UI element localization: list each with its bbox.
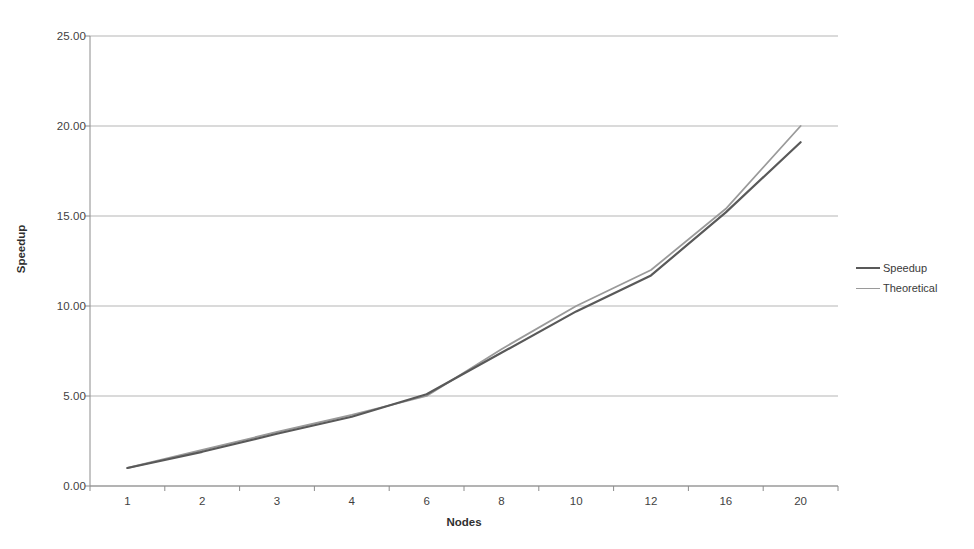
x-tick-label-20: 20 [781, 495, 821, 508]
chart-legend: SpeedupTheoretical [856, 258, 974, 298]
legend-swatch-speedup-icon [856, 267, 880, 269]
legend-item-speedup[interactable]: Speedup [856, 258, 974, 278]
gridline-group [90, 36, 838, 486]
x-tick-label-10: 10 [556, 495, 596, 508]
x-tick-label-12: 12 [631, 495, 671, 508]
legend-label-theoretical: Theoretical [883, 282, 937, 294]
x-axis-title: Nodes [90, 516, 838, 528]
legend-item-theoretical[interactable]: Theoretical [856, 278, 974, 298]
series-line-theoretical [127, 126, 800, 468]
y-axis-title: Speedup [15, 209, 27, 289]
speedup-line-chart: 0.005.0010.0015.0020.0025.00 12346810121… [0, 0, 974, 549]
y-tick-label-10: 10.00 [28, 300, 86, 312]
series-line-speedup [127, 142, 800, 468]
y-tick-label-15: 15.00 [28, 210, 86, 222]
legend-swatch-theoretical-icon [856, 288, 880, 289]
x-tick-label-1: 1 [107, 495, 147, 508]
legend-label-speedup: Speedup [883, 262, 927, 274]
y-axis-tick-labels: 0.005.0010.0015.0020.0025.00 [28, 0, 86, 549]
x-tick-label-2: 2 [182, 495, 222, 508]
y-tick-label-25: 25.00 [28, 30, 86, 42]
x-tick-label-4: 4 [332, 495, 372, 508]
y-tick-label-0: 0.00 [28, 480, 86, 492]
y-tick-label-20: 20.00 [28, 120, 86, 132]
x-tick-mark-group [90, 486, 838, 491]
x-tick-label-6: 6 [407, 495, 447, 508]
x-tick-label-8: 8 [481, 495, 521, 508]
x-axis-tick-labels: 12346810121620 [90, 495, 838, 515]
plot-area [0, 0, 974, 549]
axis-line-group [90, 36, 838, 486]
series-line-group [127, 126, 800, 468]
x-tick-label-16: 16 [706, 495, 746, 508]
y-tick-label-5: 5.00 [28, 390, 86, 402]
x-tick-label-3: 3 [257, 495, 297, 508]
